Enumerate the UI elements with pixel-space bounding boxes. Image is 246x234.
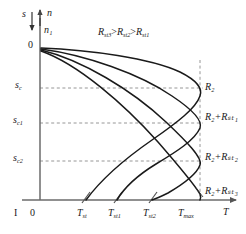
x-tick-label-tst: Tst <box>77 208 87 218</box>
curve-label-r2-rst2: R₂+Rₛₜ₂ <box>205 152 238 162</box>
x-tick-tst1-base: T <box>108 207 114 218</box>
y-tick-sc1-sub: c1 <box>17 119 23 126</box>
x-tick-label-tmax: Tmax <box>178 208 194 218</box>
leader-r2-rst3 <box>196 188 203 197</box>
curve-r2-rst1 <box>41 49 200 200</box>
axis-label-t: T <box>223 207 229 217</box>
current-axis-label: I <box>14 208 17 218</box>
y-tick-label-sc2: sc2 <box>13 153 23 163</box>
ineq-r3: Rst3 <box>98 26 111 37</box>
x-tick-tmax-base: T <box>178 207 184 218</box>
axis-value-n1: n₁ <box>44 25 52 35</box>
torque-slip-characteristic-figure: s n n₁ 0 sc sc1 sc2 I 0 Tst Tst1 Tst2 Tm… <box>0 0 246 234</box>
x-tick-label-tst2: Tst2 <box>143 208 156 218</box>
y-tick-label-sc1: sc1 <box>13 115 23 125</box>
ineq-r2: Rst2 <box>117 26 130 37</box>
x-tick-tst-sub: st <box>83 212 87 219</box>
axis-label-n: n <box>47 8 52 18</box>
y-tick-label-sc: sc <box>15 80 22 90</box>
x-tick-label-tst1: Tst1 <box>108 208 121 218</box>
origin-label: 0 <box>28 40 33 50</box>
curve-label-r2-rst1: R₂+Rₛₜ₁ <box>205 112 238 122</box>
resistance-inequality-annotation: Rst3>Rst2>Rst1 <box>98 27 149 37</box>
x-tick-label-zero: 0 <box>30 208 35 218</box>
axis-label-s: s <box>22 9 26 19</box>
y-tick-sc-sub: c <box>19 84 22 91</box>
ineq-r1: Rst1 <box>136 26 149 37</box>
x-axis-ticks <box>82 192 157 203</box>
curve-r2-rst2 <box>41 50 200 200</box>
curve-label-r2: R₂ <box>205 82 215 92</box>
x-tick-tst-base: T <box>77 207 83 218</box>
x-tick-tst2-sub: st2 <box>149 212 156 219</box>
x-tick-tst2-base: T <box>143 207 149 218</box>
x-tick-tst1-sub: st1 <box>114 212 121 219</box>
curve-label-r2-rst3: R₂+Rₛₜ₃ <box>205 186 238 196</box>
tick-tst2 <box>149 192 157 203</box>
curve-r2-rst3 <box>41 51 201 200</box>
y-tick-sc2-sub: c2 <box>17 157 23 164</box>
x-tick-tmax-sub: max <box>184 212 194 219</box>
